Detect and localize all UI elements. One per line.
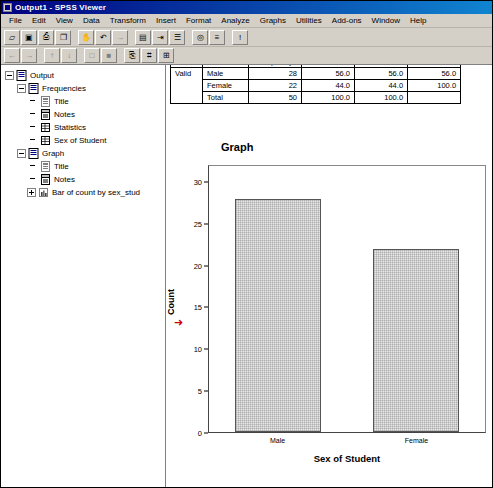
find-icon[interactable]: ◎: [192, 30, 208, 45]
goto-data-icon[interactable]: ▤: [135, 30, 151, 45]
menu-window[interactable]: Window: [367, 15, 405, 26]
menu-utilities[interactable]: Utilities: [291, 15, 327, 26]
recall-dialog-icon[interactable]: ✋: [78, 30, 94, 45]
menu-graphs[interactable]: Graphs: [255, 15, 291, 26]
variables-icon[interactable]: ☰: [169, 30, 185, 45]
cell-category-female: Female: [203, 80, 249, 92]
cell-frequency-female: 22: [249, 80, 302, 92]
y-axis-ticks: 30 25 20 15 10 5 0: [178, 165, 208, 433]
tree-item-graph[interactable]: Graph: [5, 147, 163, 160]
tree-item-sex-of-student[interactable]: Sex of Student: [5, 134, 163, 147]
cell-cum-percent-male: 56.0: [408, 68, 461, 80]
tree-item-frequencies-title[interactable]: Title: [5, 95, 163, 108]
viewer-workspace: Output Frequencies: [1, 65, 492, 487]
show-icon[interactable]: □: [84, 48, 100, 63]
hide-icon[interactable]: ■: [101, 48, 117, 63]
menu-add-ons[interactable]: Add-ons: [327, 15, 367, 26]
y-axis-title: Count: [166, 289, 176, 315]
tree-label-bar-chart: Bar of count by sex_stud: [52, 188, 140, 197]
menu-analyze[interactable]: Analyze: [216, 15, 254, 26]
x-axis-title: Sex of Student: [208, 453, 486, 464]
promote-icon[interactable]: ←: [4, 48, 20, 63]
demote-icon[interactable]: →: [21, 48, 37, 63]
spss-viewer-window: Output1 - SPSS Viewer File Edit View Dat…: [0, 0, 493, 488]
output-book-icon: [28, 83, 39, 94]
bar-male[interactable]: [235, 199, 321, 432]
y-tick-label: 15: [194, 303, 202, 312]
tree-label-notes: Notes: [54, 175, 75, 184]
tree-item-frequencies[interactable]: Frequencies: [5, 82, 163, 95]
expander-placeholder: [29, 123, 38, 132]
table-row: Valid Male 28 56.0 56.0 56.0: [171, 68, 461, 80]
cell-group-valid: Valid: [171, 68, 203, 80]
cell-cum-percent-female: 100.0: [408, 80, 461, 92]
goto-case-icon[interactable]: ⇥: [152, 30, 168, 45]
cell-valid-percent-female: 44.0: [355, 80, 408, 92]
export-icon[interactable]: →: [112, 30, 128, 45]
cell-valid-percent-total: 100.0: [355, 92, 408, 104]
tree-item-graph-notes[interactable]: Notes: [5, 173, 163, 186]
menu-insert[interactable]: Insert: [151, 15, 181, 26]
print-preview-icon[interactable]: ❐: [55, 30, 71, 45]
toolbar-separator-4: [226, 30, 231, 45]
expander-bar-chart[interactable]: [27, 188, 36, 197]
graph-section-heading: Graph: [221, 141, 253, 153]
expander-output[interactable]: [5, 71, 14, 80]
output-pane[interactable]: Frequency Percent Valid Percent Percent …: [166, 65, 492, 487]
window-title: Output1 - SPSS Viewer: [15, 3, 106, 12]
insert-text-icon[interactable]: ⊞: [158, 48, 174, 63]
cell-group-blank-2: [171, 92, 203, 104]
menu-data[interactable]: Data: [78, 15, 105, 26]
title-bar: Output1 - SPSS Viewer: [1, 1, 492, 14]
menu-help[interactable]: Help: [405, 15, 431, 26]
move-up-icon[interactable]: ↑: [44, 48, 60, 63]
tree-item-output[interactable]: Output: [5, 69, 163, 82]
move-down-icon[interactable]: ↓: [61, 48, 77, 63]
menu-edit[interactable]: Edit: [27, 15, 51, 26]
tree-item-statistics[interactable]: Statistics: [5, 121, 163, 134]
bar-chart[interactable]: ➜ Count 30 25 20 15 10 5 0: [166, 165, 492, 487]
frequency-table: Frequency Percent Valid Percent Percent …: [170, 65, 461, 104]
insert-title-icon[interactable]: ⌗: [141, 48, 157, 63]
insert-heading-icon[interactable]: ⎘: [124, 48, 140, 63]
title-page-icon: [40, 161, 51, 172]
menu-format[interactable]: Format: [181, 15, 216, 26]
save-icon[interactable]: ▣: [21, 30, 37, 45]
notes-page-icon: [40, 174, 51, 185]
x-tick-label: Male: [270, 437, 285, 444]
tree-label-frequencies: Frequencies: [42, 84, 86, 93]
cell-group-blank: [171, 80, 203, 92]
cell-category-total: Total: [203, 92, 249, 104]
menu-bar: File Edit View Data Transform Insert For…: [1, 14, 492, 28]
tree-label-graph: Graph: [42, 149, 64, 158]
insert-cases-icon[interactable]: ≡: [209, 30, 225, 45]
y-tick-label: 10: [194, 345, 202, 354]
expander-frequencies[interactable]: [17, 84, 26, 93]
chart-icon: [38, 187, 49, 198]
print-icon[interactable]: ⎙: [38, 30, 54, 45]
cell-percent-male: 56.0: [302, 68, 355, 80]
cell-percent-female: 44.0: [302, 80, 355, 92]
cell-frequency-male: 28: [249, 68, 302, 80]
tree-label-notes: Notes: [54, 110, 75, 119]
tree-item-graph-title[interactable]: Title: [5, 160, 163, 173]
menu-file[interactable]: File: [4, 15, 27, 26]
x-axis-ticks: Male Female: [208, 437, 486, 451]
tree-item-bar-chart[interactable]: Bar of count by sex_stud: [5, 186, 163, 199]
bar-female[interactable]: [373, 249, 459, 432]
outline-pane[interactable]: Output Frequencies: [1, 65, 166, 487]
plot-area: [208, 165, 486, 433]
cell-cum-percent-total: [408, 92, 461, 104]
menu-transform[interactable]: Transform: [105, 15, 151, 26]
output-book-icon: [28, 148, 39, 159]
undo-icon[interactable]: ↶: [95, 30, 111, 45]
menu-view[interactable]: View: [51, 15, 78, 26]
open-file-icon[interactable]: ▱: [4, 30, 20, 45]
table-icon: [40, 135, 51, 146]
x-tick-label: Female: [405, 437, 428, 444]
tree-item-frequencies-notes[interactable]: Notes: [5, 108, 163, 121]
expander-graph[interactable]: [17, 149, 26, 158]
toolbar-separator-3: [186, 30, 191, 45]
use-sets-icon[interactable]: !: [232, 30, 248, 45]
table-row: Total 50 100.0 100.0: [171, 92, 461, 104]
